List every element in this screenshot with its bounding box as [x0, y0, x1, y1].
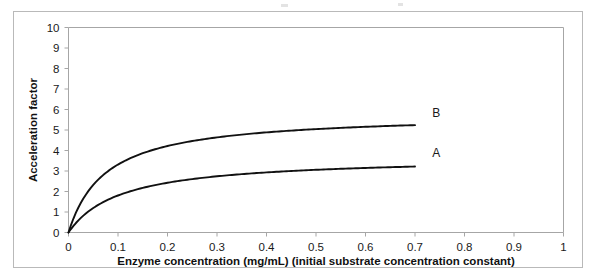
y-tick-label: 1	[53, 206, 59, 218]
x-axis-title: Enzyme concentration (mg/mL) (initial su…	[117, 255, 515, 267]
y-tick-label: 4	[53, 145, 60, 157]
curve-series-b	[69, 125, 416, 232]
series-annotations: BA	[432, 106, 440, 160]
y-tick-label: 7	[53, 83, 59, 95]
series-label-b: B	[432, 106, 440, 120]
chart-plot-area: 012345678910 00.10.20.30.40.50.60.70.80.…	[0, 0, 597, 276]
x-tick-label: 0.2	[160, 241, 176, 253]
y-tick-label: 8	[53, 63, 59, 75]
x-tick-label: 0.1	[110, 241, 126, 253]
y-tick-label: 0	[53, 227, 59, 239]
x-tick-label: 0.3	[209, 241, 225, 253]
curve-series-a	[69, 167, 416, 233]
y-tick-label: 6	[53, 104, 59, 116]
chart-figure: 012345678910 00.10.20.30.40.50.60.70.80.…	[0, 0, 597, 276]
x-tick-label: 0.7	[407, 241, 423, 253]
y-tick-label: 3	[53, 165, 59, 177]
scan-artifact	[281, 4, 288, 7]
x-axis-ticks: 00.10.20.30.40.50.60.70.80.91	[65, 233, 566, 253]
x-tick-label: 0.8	[457, 241, 473, 253]
x-tick-label: 1	[560, 241, 566, 253]
x-tick-label: 0.4	[259, 241, 276, 253]
x-tick-label: 0	[65, 241, 71, 253]
series-label-a: A	[432, 146, 440, 160]
y-tick-label: 2	[53, 186, 59, 198]
y-tick-label: 5	[53, 124, 59, 136]
y-axis-ticks: 012345678910	[47, 22, 69, 239]
x-tick-label: 0.5	[308, 241, 324, 253]
x-tick-label: 0.6	[358, 241, 374, 253]
scan-artifact	[398, 3, 403, 6]
y-axis-title: Acceleration factor	[27, 77, 39, 182]
y-tick-label: 9	[53, 42, 59, 54]
x-tick-label: 0.9	[506, 241, 522, 253]
data-curves	[69, 125, 416, 232]
y-tick-label: 10	[47, 22, 60, 34]
